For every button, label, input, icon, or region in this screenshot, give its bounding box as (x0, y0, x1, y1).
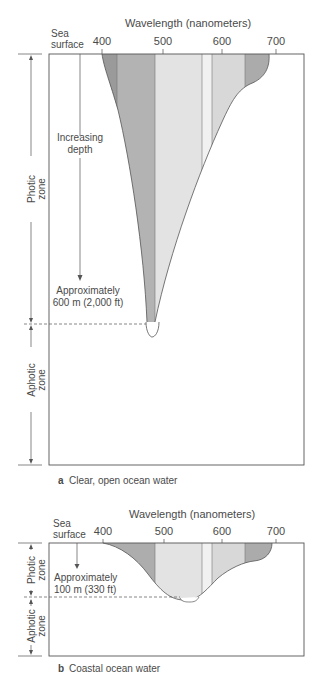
panel-a-zone-brackets (18, 54, 42, 465)
panel-b-aphotic-label-2: zone (36, 615, 47, 637)
panel-a-spectrum (100, 54, 275, 344)
b-band-yellow (202, 543, 212, 603)
band-green (155, 54, 202, 344)
increasing-depth-label-1: Increasing (57, 132, 103, 143)
panel-a-caption-letter: a (58, 475, 64, 486)
down-arrow-icon (78, 275, 83, 281)
panel-a-depth-label-1: Approximately (56, 285, 119, 296)
panel-a-photic-label-2: zone (36, 178, 47, 200)
panel-a-axis-title: Wavelength (nanometers) (125, 17, 251, 29)
panel-b-caption-letter: b (58, 663, 64, 674)
panel-b-depth-label-2: 100 m (330 ft) (54, 584, 116, 595)
b-band-green (155, 543, 202, 603)
panel-b-coastal-ocean: Wavelength (nanometers) Sea surface 400 … (18, 508, 304, 674)
tick-label-600: 600 (213, 35, 231, 47)
panel-a-depth-label-2: 600 m (2,000 ft) (53, 297, 124, 308)
panel-b-sea-label-2: surface (53, 529, 86, 540)
panel-a-sea-label-1: Sea (51, 28, 69, 39)
b-tick-label-600: 600 (213, 525, 231, 537)
panel-a-aphotic-label-2: zone (36, 369, 47, 391)
down-arrow-icon (75, 564, 80, 569)
tick-marks (102, 49, 276, 54)
band-red (245, 54, 275, 344)
panel-a-clear-ocean: Wavelength (nanometers) Sea surface 400 … (18, 17, 304, 486)
increasing-depth-label-2: depth (67, 144, 92, 155)
panel-b-depth-label-1: Approximately (54, 572, 117, 583)
b-band-orange (212, 543, 245, 603)
panel-b-spectrum (100, 543, 275, 603)
panel-b-caption: Coastal ocean water (69, 663, 161, 674)
light-penetration-diagram: Wavelength (nanometers) Sea surface 400 … (0, 0, 329, 687)
panel-a-sea-label-2: surface (51, 39, 84, 50)
b-tick-label-500: 500 (155, 525, 173, 537)
b-band-red (245, 543, 275, 603)
tick-label-700: 700 (267, 35, 285, 47)
panel-a-caption: Clear, open ocean water (69, 475, 178, 486)
tick-label-500: 500 (154, 35, 172, 47)
panel-a-funnel-tip (146, 322, 159, 337)
b-tick-label-700: 700 (267, 525, 285, 537)
b-tick-label-400: 400 (94, 525, 112, 537)
tick-label-400: 400 (93, 35, 111, 47)
band-orange (212, 54, 245, 344)
band-yellow (202, 54, 212, 344)
panel-b-axis-title: Wavelength (nanometers) (129, 508, 255, 520)
panel-b-sea-label-1: Sea (53, 518, 71, 529)
panel-b-photic-label-2: zone (36, 559, 47, 581)
